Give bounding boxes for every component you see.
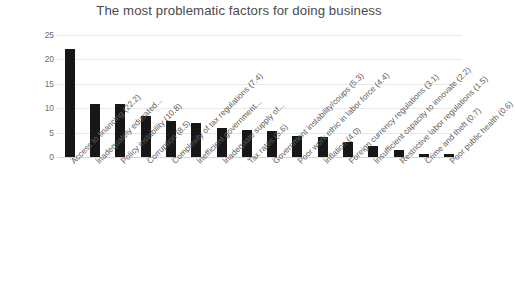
y-tick-label-10: 10 [30,104,54,112]
y-tick-label-20: 20 [30,55,54,63]
bar[interactable] [65,49,75,157]
chart-title: The most problematic factors for doing b… [0,3,478,18]
y-tick-label-0: 0 [30,153,54,161]
x-axis-labels: Access to financing (22.2)Inadequately e… [57,160,462,302]
y-tick-label-25: 25 [30,31,54,39]
y-tick-label-5: 5 [30,128,54,136]
y-tick-label-15: 15 [30,80,54,88]
y-axis: 0510152025 [30,35,54,157]
